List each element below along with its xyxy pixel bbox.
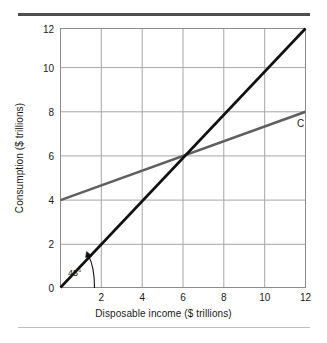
x-axis-title: Disposable income ($ trillions) (0, 308, 327, 319)
y-tick-label-4: 4 (36, 195, 54, 206)
x-tick-label-6: 6 (180, 292, 186, 303)
figure-canvas: 12 10 8 6 4 2 0 2 4 6 8 10 12 C 45° Disp… (0, 0, 327, 343)
y-tick-label-6: 6 (36, 150, 54, 161)
y-tick-label-2: 2 (36, 239, 54, 250)
x-tick-label-10: 10 (259, 292, 270, 303)
y-tick-label-0: 0 (36, 282, 54, 293)
series-label-c: C (297, 118, 304, 129)
y-axis-title: Consumption ($ trillions) (14, 28, 28, 288)
x-tick-label-12: 12 (300, 292, 311, 303)
y-tick-label-12: 12 (36, 23, 54, 34)
y-tick-label-8: 8 (36, 106, 54, 117)
angle-45-label: 45° (68, 268, 82, 278)
x-tick-label-8: 8 (221, 292, 227, 303)
y-tick-label-10: 10 (36, 62, 54, 73)
x-tick-label-4: 4 (139, 292, 145, 303)
x-tick-label-2: 2 (99, 292, 105, 303)
